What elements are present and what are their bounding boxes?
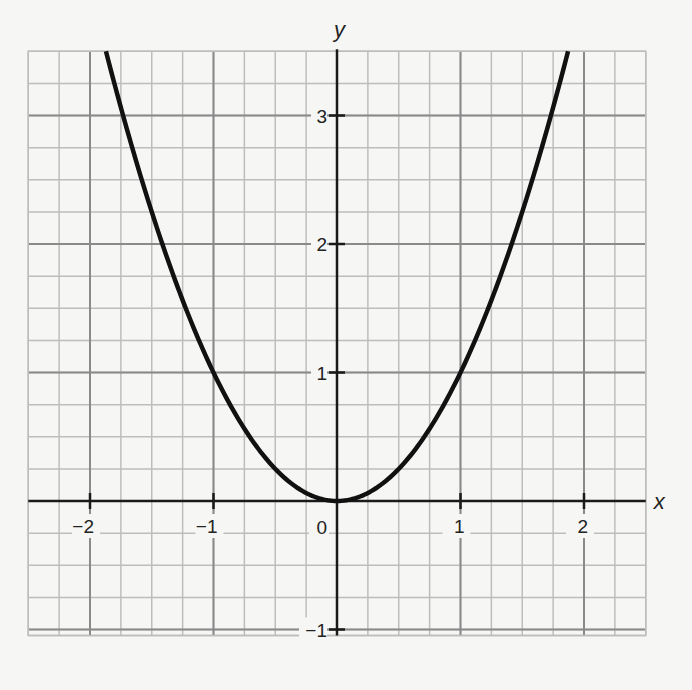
y-tick-label: 1 bbox=[316, 363, 327, 384]
y-axis-label: y bbox=[332, 17, 347, 42]
y-tick-label: −1 bbox=[305, 620, 327, 641]
origin-label: 0 bbox=[316, 517, 327, 538]
x-axis-label: x bbox=[653, 489, 666, 514]
x-tick-label: 1 bbox=[454, 516, 465, 537]
parabola-chart: −2−1012−1123 x y bbox=[0, 0, 692, 690]
x-tick-label: 2 bbox=[577, 516, 588, 537]
x-tick-label: −2 bbox=[72, 516, 94, 537]
y-tick-label: 3 bbox=[316, 106, 327, 127]
x-tick-label: −1 bbox=[196, 516, 218, 537]
y-tick-label: 2 bbox=[316, 234, 327, 255]
